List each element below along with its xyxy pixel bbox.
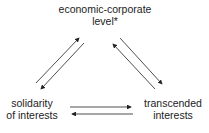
arrows [0,0,209,133]
diagram: economic-corporate level* solidarity of … [0,0,209,133]
arrow-right-to-top [113,44,155,89]
arrow-top-to-left [41,43,84,89]
arrow-left-to-top [36,38,79,83]
arrow-top-to-right [120,38,162,84]
